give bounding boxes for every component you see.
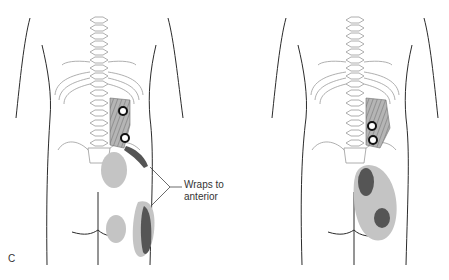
left-back-view [16, 17, 183, 265]
anatomy-figure [0, 0, 449, 280]
spine [344, 17, 366, 163]
referral-zone-buttock-upper [358, 168, 374, 196]
trigger-point [119, 107, 127, 115]
panel-label: C [8, 253, 15, 264]
annotation-line-1: Wraps to [184, 179, 244, 191]
wraps-to-anterior-annotation: Wraps to anterior [184, 179, 244, 203]
spine [88, 17, 110, 163]
trigger-point [368, 122, 376, 130]
referral-zone-buttock-lower [374, 208, 390, 228]
referral-zone-upper-buttock [101, 152, 127, 188]
annotation-line-2: anterior [184, 191, 244, 203]
right-back-view [272, 17, 438, 265]
trigger-point [121, 134, 129, 142]
referral-zone-lower-buttock [106, 215, 126, 243]
trigger-point [369, 136, 377, 144]
